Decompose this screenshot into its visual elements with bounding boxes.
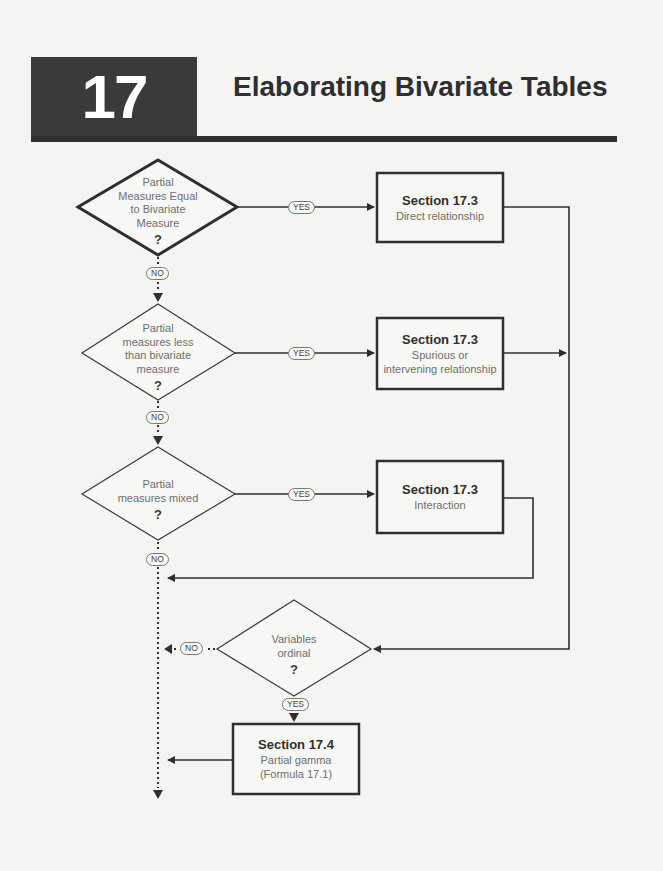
result-2-text: Section 17.3 Spurious or intervening rel… — [377, 331, 503, 376]
yes-label-3: YES — [288, 488, 315, 501]
yes-label-1: YES — [288, 201, 315, 214]
decision-1-line: to Bivariate — [98, 203, 218, 217]
result-4-title: Section 17.4 — [233, 736, 359, 753]
yes-label-2: YES — [288, 347, 315, 360]
result-1-text: Section 17.3 Direct relationship — [377, 192, 503, 223]
question-mark-icon: ? — [98, 233, 218, 247]
decision-1-line: Measures Equal — [98, 190, 218, 204]
decision-1-text: Partial Measures Equal to Bivariate Meas… — [98, 176, 218, 247]
decision-2-line: Partial — [98, 322, 218, 336]
no-label-1: NO — [146, 267, 169, 280]
decision-3-text: Partial measures mixed ? — [98, 478, 218, 522]
result-2-desc: Spurious or — [377, 348, 503, 362]
result-3-text: Section 17.3 Interaction — [377, 481, 503, 512]
decision-3-line: measures mixed — [98, 492, 218, 506]
no-label-2: NO — [146, 411, 169, 424]
decision-1-line: Partial — [98, 176, 218, 190]
decision-2-text: Partial measures less than bivariate mea… — [98, 322, 218, 393]
result-4-desc: Partial gamma — [233, 753, 359, 767]
question-mark-icon: ? — [98, 379, 218, 393]
decision-2-line: than bivariate — [98, 349, 218, 363]
result-2-title: Section 17.3 — [377, 331, 503, 348]
question-mark-icon: ? — [98, 508, 218, 522]
no-label-4: NO — [180, 642, 203, 655]
decision-3-line: Partial — [98, 478, 218, 492]
decision-1-line: Measure — [98, 217, 218, 231]
decision-4-line: ordinal — [234, 647, 354, 661]
decision-2-line: measures less — [98, 336, 218, 350]
result-1-title: Section 17.3 — [377, 192, 503, 209]
result-3-title: Section 17.3 — [377, 481, 503, 498]
question-mark-icon: ? — [234, 663, 354, 677]
decision-2-line: measure — [98, 363, 218, 377]
decision-4-text: Variables ordinal ? — [234, 633, 354, 677]
result-4-text: Section 17.4 Partial gamma (Formula 17.1… — [233, 736, 359, 781]
no-label-3: NO — [146, 553, 169, 566]
result-1-desc: Direct relationship — [377, 209, 503, 223]
result-2-desc: intervening relationship — [377, 362, 503, 376]
yes-label-4: YES — [282, 698, 309, 711]
end-arrow-icon — [153, 790, 163, 799]
result-3-desc: Interaction — [377, 498, 503, 512]
result-4-desc: (Formula 17.1) — [233, 767, 359, 781]
decision-4-line: Variables — [234, 633, 354, 647]
